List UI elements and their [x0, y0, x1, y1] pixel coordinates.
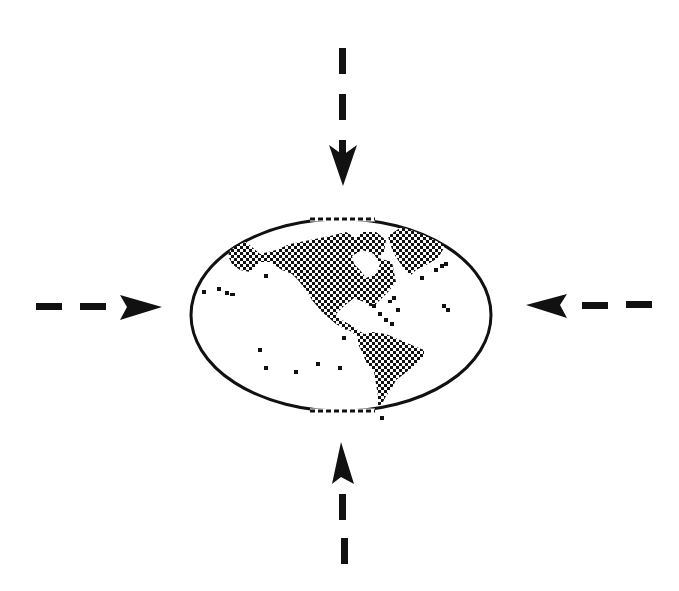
arrow-bottom-dash-1: [339, 494, 346, 520]
arrow-top-dash-2: [339, 94, 346, 120]
arrow-left-head: [120, 295, 162, 320]
arrow-left-dash-2: [80, 303, 106, 310]
arrow-right-dash-1: [582, 302, 608, 309]
arrow-top: [329, 48, 357, 186]
diagram-canvas: [0, 0, 679, 591]
arrow-right: [526, 294, 652, 318]
arrow-bottom-dash-2: [341, 538, 348, 564]
arrow-right-head: [526, 294, 567, 318]
arrow-left: [36, 295, 162, 320]
globe: [191, 219, 491, 420]
arrow-bottom-head: [332, 442, 354, 484]
arrow-left-dash-1: [36, 303, 62, 310]
arrow-right-dash-2: [626, 301, 652, 308]
arrow-top-dash-1: [339, 48, 346, 74]
arrow-bottom: [332, 442, 354, 564]
